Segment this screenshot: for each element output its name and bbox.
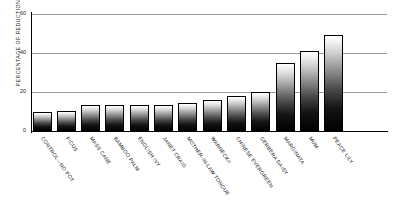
- bar: [276, 63, 295, 132]
- x-axis-label: MUM: [307, 136, 319, 150]
- bar: [227, 96, 246, 132]
- bar: [178, 103, 197, 132]
- y-tick-0: 0: [4, 128, 26, 133]
- x-axis-label: CONTROL—NO POT: [40, 136, 75, 183]
- x-axis-label: ENGLISH IVY: [137, 136, 161, 168]
- bar: [203, 100, 222, 132]
- bar: [154, 105, 173, 132]
- bar: [81, 105, 100, 132]
- bar: [324, 35, 343, 132]
- x-axis-label: JANET CRAIG: [162, 136, 187, 169]
- x-axis-label: MOTHER-IN-LAW TONGUE: [186, 136, 231, 197]
- y-tick-60: 60: [4, 11, 26, 16]
- bar: [251, 92, 270, 132]
- bar: [57, 111, 76, 132]
- x-axis-label: CHINESE EVERGREEN: [234, 136, 273, 189]
- x-axis-label: MARGINATA: [283, 136, 306, 165]
- bar-chart: PERCENTAGE OF REDUCTION 60 40 20 0 CONTR…: [0, 0, 396, 219]
- bar: [130, 105, 149, 132]
- x-axis-label: PEACE LILY: [332, 136, 354, 165]
- x-axis-label: MASS CANE: [89, 136, 112, 166]
- bar: [105, 105, 124, 132]
- bar-series: [31, 13, 387, 132]
- x-axis-label: WARNECKII: [210, 136, 232, 165]
- x-axis-label: BAMBOO PALM: [113, 136, 140, 172]
- y-tick-20: 20: [4, 89, 26, 94]
- bar: [33, 112, 52, 132]
- bar: [300, 51, 319, 132]
- x-axis-label: GERBERA DAISY: [259, 136, 289, 176]
- x-axis-label: FICUS: [64, 136, 78, 153]
- y-tick-40: 40: [4, 50, 26, 55]
